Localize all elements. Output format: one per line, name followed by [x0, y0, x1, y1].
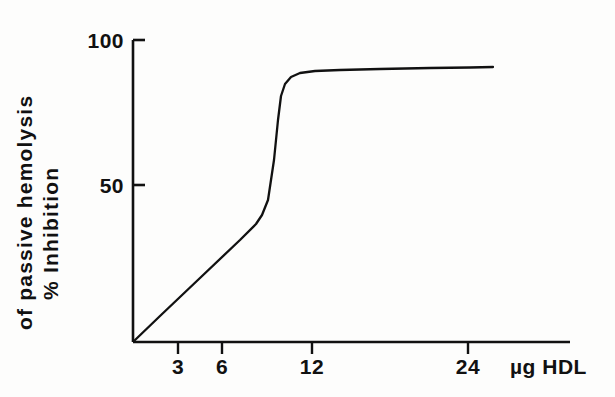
- y-tick-label-100: 100: [87, 29, 124, 52]
- x-tick-label-3: 3: [172, 355, 184, 378]
- y-axis-title-line1: % Inhibition: [39, 167, 62, 300]
- data-curve-hdl: [134, 67, 493, 341]
- x-axis-unit-label: µg HDL: [510, 355, 587, 378]
- x-tick-label-12: 12: [300, 355, 324, 378]
- x-tick-label-24: 24: [456, 355, 480, 378]
- y-axis-title-line2: of passive hemolysis: [13, 95, 36, 330]
- figure-panel: 100 50 3 6 12 24 µg HDL % Inhibition of …: [0, 0, 615, 397]
- hdl-hemolysis-chart: 100 50 3 6 12 24 µg HDL % Inhibition of …: [0, 0, 615, 397]
- x-tick-label-6: 6: [216, 355, 228, 378]
- y-tick-label-50: 50: [100, 174, 124, 197]
